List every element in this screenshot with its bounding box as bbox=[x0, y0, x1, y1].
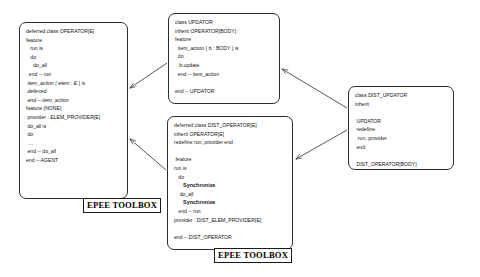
code-line: class UPDATOR bbox=[175, 18, 274, 27]
code-line: run is bbox=[26, 44, 122, 53]
code-line: deferred class DIST_OPERATOR[E] bbox=[174, 121, 287, 130]
class-box-operator[interactable]: deferred class OPERATOR[E]feature run is… bbox=[19, 22, 128, 199]
code-line: redefine run, provider end bbox=[174, 138, 287, 147]
code-line: b.update bbox=[175, 61, 274, 70]
code-line: inherit OPERATOR[E] bbox=[174, 130, 287, 139]
code-line: feature bbox=[175, 35, 274, 44]
code-line: do bbox=[174, 173, 287, 182]
code-line: inherit bbox=[355, 100, 448, 109]
code-line: deferred bbox=[26, 87, 122, 96]
code-line: Synchronize bbox=[174, 198, 287, 207]
code-line: end -- item_action bbox=[26, 96, 122, 105]
code-line: end -- do_all bbox=[26, 147, 122, 156]
code-line bbox=[355, 108, 448, 117]
arrow-updator-to-operator bbox=[130, 63, 167, 88]
code-line bbox=[174, 147, 287, 156]
code-line: ... bbox=[26, 139, 122, 148]
code-line: end -- run bbox=[26, 70, 122, 79]
code-line: inherit OPERATOR[BODY] bbox=[175, 27, 274, 36]
code-line: UPDATOR bbox=[355, 117, 448, 126]
class-box-dist-operator[interactable]: deferred class DIST_OPERATOR[E]inherit O… bbox=[167, 116, 293, 250]
code-line: item_action ( b : BODY ) is bbox=[175, 44, 274, 53]
code-line: redefine bbox=[355, 125, 448, 134]
class-box-dist-updator[interactable]: class DIST_UPDATORinherit UPDATOR redefi… bbox=[348, 86, 454, 170]
class-diagram: deferred class OPERATOR[E]feature run is… bbox=[0, 0, 480, 277]
code-line: end bbox=[355, 143, 448, 152]
arrow-dist-updator-to-dist-operator bbox=[296, 130, 347, 159]
class-box-updator[interactable]: class UPDATORinherit OPERATOR[BODY]featu… bbox=[168, 13, 280, 104]
code-line: do_all bbox=[174, 190, 287, 199]
code-line: end -- UPDATOR bbox=[175, 87, 274, 96]
arrow-dist-operator-to-operator bbox=[130, 139, 166, 170]
code-line bbox=[175, 78, 274, 87]
code-line: do bbox=[26, 53, 122, 62]
code-line: deferred class OPERATOR[E] bbox=[26, 27, 122, 36]
code-line: feature bbox=[26, 36, 122, 45]
arrow-dist-updator-to-updator bbox=[282, 69, 347, 108]
code-line: run, provider bbox=[355, 134, 448, 143]
code-line: do bbox=[26, 130, 122, 139]
code-line: end -- AGENT bbox=[26, 156, 122, 165]
code-line: do_all bbox=[26, 61, 122, 70]
code-line: end -- run bbox=[174, 207, 287, 216]
code-line: end -- DIST_UPDATOR bbox=[355, 168, 448, 170]
epee-toolbox-label-right: EPEE TOOLBOX bbox=[214, 248, 292, 263]
code-line: end -- item_action bbox=[175, 70, 274, 79]
code-line bbox=[174, 224, 287, 233]
code-line: item_action ( elem : E ) is bbox=[26, 79, 122, 88]
code-line: end -- DIST_OPERATOR bbox=[174, 233, 287, 242]
code-line: provider : ELEM_PROVIDER[E] bbox=[26, 113, 122, 122]
code-line: class DIST_UPDATOR bbox=[355, 91, 448, 100]
code-line: provider : DIST_ELEM_PROVIDER[E] bbox=[174, 216, 287, 225]
code-line: Synchronize bbox=[174, 181, 287, 190]
code-line bbox=[355, 151, 448, 160]
code-line: do_all is bbox=[26, 122, 122, 131]
code-line: feature {NONE} bbox=[26, 104, 122, 113]
code-line: do bbox=[175, 52, 274, 61]
code-line: DIST_OPERATOR[BODY] bbox=[355, 160, 448, 169]
code-line: run is bbox=[174, 164, 287, 173]
epee-toolbox-label-left: EPEE TOOLBOX bbox=[83, 198, 161, 213]
code-line: feature bbox=[174, 155, 287, 164]
